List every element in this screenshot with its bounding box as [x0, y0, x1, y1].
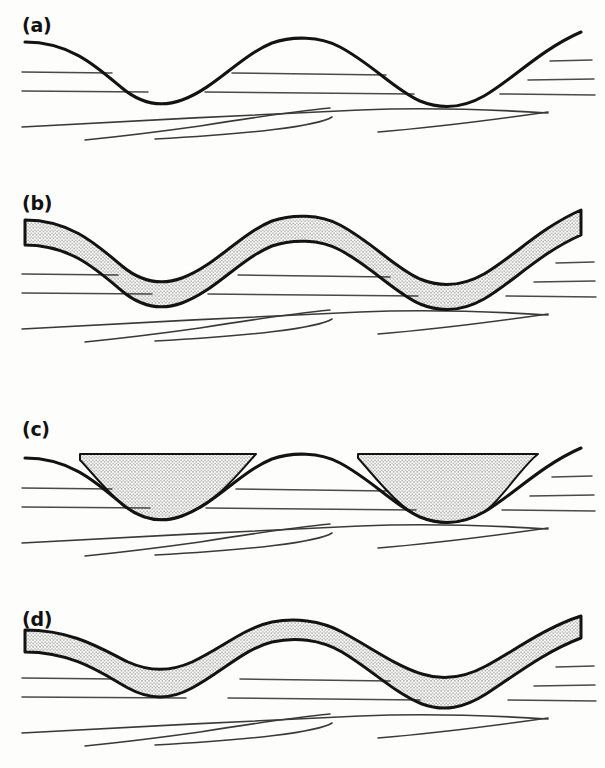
- panel-c: (c): [0, 398, 605, 590]
- panel-d-label: (d): [22, 608, 52, 630]
- panel-d-drawing: [0, 590, 605, 768]
- panel-a: (a): [0, 0, 605, 178]
- panel-b: (b): [0, 178, 605, 398]
- fold-surface-a: [25, 32, 581, 107]
- strata-upper-left-a: [22, 72, 148, 92]
- geological-cross-section-figure: (a): [0, 0, 605, 768]
- strata-upper-right-a: [500, 60, 595, 95]
- panel-a-label: (a): [22, 14, 51, 36]
- strata-lower-b: [22, 310, 548, 342]
- panel-d: (d): [0, 590, 605, 768]
- panel-a-drawing: [0, 0, 605, 178]
- panel-c-label: (c): [22, 418, 50, 440]
- panel-c-drawing: [0, 398, 605, 590]
- strata-upper-right-c: [502, 476, 595, 511]
- strata-lower-a: [22, 108, 548, 140]
- stipple-fill-trough-right-c: [358, 454, 538, 523]
- strata-lower-c: [22, 524, 548, 556]
- stipple-band-d: [25, 616, 581, 708]
- strata-lower-d: [22, 714, 548, 746]
- panel-b-label: (b): [22, 192, 52, 214]
- panel-b-drawing: [0, 178, 605, 398]
